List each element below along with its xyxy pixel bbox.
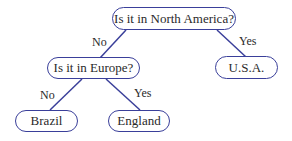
node-usa-answer: U.S.A. [215,56,278,79]
node-europe-question: Is it in Europe? [47,57,140,79]
node-england-answer: England [108,110,170,132]
node-root-label: Is it in North America? [114,11,234,27]
edge-europe-to-brazil [50,79,82,110]
node-brazil-answer: Brazil [15,110,78,132]
edge-label-europe-yes: Yes [134,86,151,101]
edge-label-root-no: No [92,35,107,50]
node-england-label: England [117,113,160,129]
node-europe-label: Is it in Europe? [54,60,134,76]
edge-label-europe-no: No [40,88,55,103]
node-usa-label: U.S.A. [229,60,265,76]
decision-tree-diagram: Is it in North America? Is it in Europe?… [0,0,292,141]
node-brazil-label: Brazil [31,113,63,129]
edge-label-root-yes: Yes [239,34,256,49]
node-root-question: Is it in North America? [112,7,236,30]
